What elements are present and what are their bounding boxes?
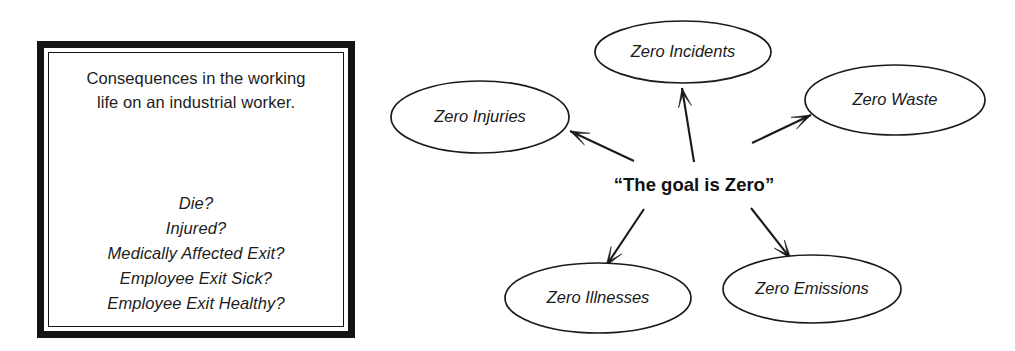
node-zero-injuries-label: Zero Injuries [433, 107, 526, 125]
node-zero-illnesses-label: Zero Illnesses [546, 288, 650, 306]
edge-to-emissions-line [751, 208, 791, 259]
edge-to-injuries-line [570, 131, 634, 161]
node-zero-illnesses[interactable]: Zero Illnesses [505, 263, 691, 333]
node-zero-emissions-label: Zero Emissions [754, 279, 869, 297]
node-zero-incidents[interactable]: Zero Incidents [595, 21, 771, 83]
node-zero-emissions[interactable]: Zero Emissions [723, 255, 901, 323]
edge-to-illnesses-line [606, 209, 644, 266]
diagram-center-label: “The goal is Zero” [614, 174, 774, 195]
diagram-canvas: Zero Incidents Zero Injuries Zero Waste … [0, 0, 1015, 351]
node-zero-incidents-label: Zero Incidents [630, 42, 736, 60]
node-zero-injuries[interactable]: Zero Injuries [391, 81, 569, 153]
edge-to-waste-line [752, 115, 811, 143]
zero-goal-diagram: Zero Incidents Zero Injuries Zero Waste … [0, 0, 1015, 351]
node-zero-waste[interactable]: Zero Waste [805, 65, 985, 135]
node-zero-waste-label: Zero Waste [852, 90, 938, 108]
